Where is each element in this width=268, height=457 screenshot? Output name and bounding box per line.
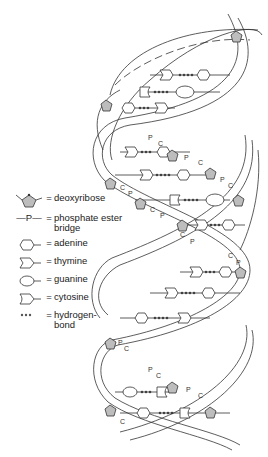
svg-text:P: P — [160, 212, 165, 219]
svg-text:C: C — [228, 182, 233, 189]
svg-text:C: C — [198, 392, 203, 399]
dots-hydrogen-bond-icon — [14, 310, 44, 324]
svg-text:P: P — [128, 190, 133, 197]
svg-text:C: C — [198, 159, 203, 166]
svg-text:C: C — [228, 252, 233, 259]
svg-text:P: P — [186, 386, 191, 393]
legend-row-adenine: = adenine — [14, 238, 88, 252]
legend-row-phosphate: —P— = phosphate ester bridge — [14, 213, 124, 227]
svg-text:P: P — [236, 259, 241, 266]
crescent-cytosine-icon — [14, 292, 44, 306]
svg-text:C: C — [120, 184, 125, 191]
hexagon-adenine-icon — [14, 238, 44, 252]
legend-row-cytosine: = cytosine — [14, 292, 89, 306]
svg-text:C: C — [124, 345, 129, 352]
legend-row-deoxyribose: = deoxyribose — [14, 193, 105, 207]
svg-text:P: P — [148, 134, 153, 141]
legend-row-thymine: = thymine — [14, 256, 87, 270]
legend-row-hydrogen-bond: = hydrogen-bond — [14, 310, 104, 324]
svg-text:C: C — [158, 140, 163, 147]
svg-text:P: P — [220, 176, 225, 183]
svg-text:C: C — [180, 231, 185, 238]
dna-helix-diagram: PC PC CP CP PC CP CP PC PC PC C — [0, 0, 268, 457]
legend-row-guanine: = guanine — [14, 274, 88, 288]
svg-text:P: P — [184, 154, 189, 161]
svg-text:C: C — [156, 372, 161, 379]
oval-guanine-icon — [14, 274, 44, 288]
svg-text:C: C — [150, 206, 155, 213]
svg-text:P: P — [118, 339, 123, 346]
base-pair-row — [150, 70, 230, 80]
svg-text:P: P — [190, 238, 195, 245]
svg-text:C: C — [120, 418, 125, 425]
pentagon-deoxyribose-icon — [14, 193, 44, 207]
svg-text:P: P — [148, 366, 153, 373]
notched-thymine-icon — [14, 256, 44, 270]
phosphate-bridge-icon: —P— — [14, 213, 44, 227]
